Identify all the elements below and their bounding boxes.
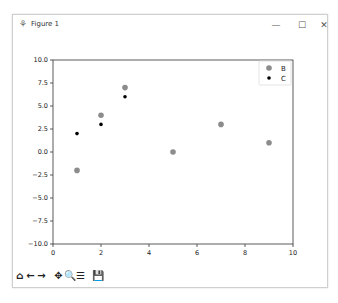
y-tick-label: 0.0 bbox=[38, 148, 48, 156]
data-point-B bbox=[266, 140, 272, 146]
pan-icon: ✥ bbox=[54, 270, 62, 281]
y-tick-label: 10.0 bbox=[34, 56, 48, 64]
data-point-C bbox=[75, 132, 79, 136]
home-icon: ⌂ bbox=[16, 270, 23, 281]
data-point-C bbox=[99, 123, 103, 127]
save-button[interactable]: 💾 bbox=[92, 269, 103, 283]
home-button[interactable]: ⌂ bbox=[14, 269, 25, 283]
data-point-B bbox=[218, 122, 224, 128]
x-tick-label: 4 bbox=[147, 249, 151, 257]
legend-marker-C bbox=[267, 76, 271, 80]
legend-label-B: B bbox=[281, 65, 286, 73]
scatter-plot[interactable]: 024681010.07.55.02.50.0−2.5−5.0−7.5−10.0… bbox=[0, 0, 338, 303]
legend-marker-B bbox=[266, 65, 272, 71]
y-tick-label: 7.5 bbox=[38, 79, 48, 87]
y-tick-label: −10.0 bbox=[28, 240, 48, 248]
back-arrow-icon: ← bbox=[26, 270, 34, 281]
y-tick-label: −2.5 bbox=[32, 171, 48, 179]
pan-button[interactable]: ✥ bbox=[53, 269, 64, 283]
save-icon: 💾 bbox=[92, 270, 104, 281]
data-point-B bbox=[98, 112, 104, 118]
data-point-B bbox=[74, 168, 80, 174]
forward-arrow-button[interactable]: → bbox=[36, 269, 47, 283]
x-tick-label: 2 bbox=[99, 249, 103, 257]
data-point-C bbox=[123, 95, 127, 99]
y-tick-label: −5.0 bbox=[32, 194, 48, 202]
back-arrow-button[interactable]: ← bbox=[25, 269, 36, 283]
configure-subplots-icon: ☰ bbox=[76, 270, 85, 281]
y-tick-label: −7.5 bbox=[32, 217, 48, 225]
configure-subplots-button[interactable]: ☰ bbox=[75, 269, 86, 283]
data-point-B bbox=[170, 149, 176, 155]
y-tick-label: 5.0 bbox=[38, 102, 48, 110]
forward-arrow-icon: → bbox=[37, 270, 45, 281]
zoom-button[interactable]: 🔍 bbox=[64, 269, 75, 283]
legend-label-C: C bbox=[281, 75, 286, 83]
x-tick-label: 0 bbox=[51, 249, 55, 257]
navigation-toolbar: ⌂←→✥🔍☰💾 bbox=[14, 267, 103, 285]
y-tick-label: 2.5 bbox=[38, 125, 48, 133]
x-tick-label: 8 bbox=[243, 249, 247, 257]
x-tick-label: 6 bbox=[195, 249, 199, 257]
data-point-B bbox=[122, 85, 128, 91]
legend bbox=[259, 61, 291, 85]
x-tick-label: 10 bbox=[289, 249, 297, 257]
